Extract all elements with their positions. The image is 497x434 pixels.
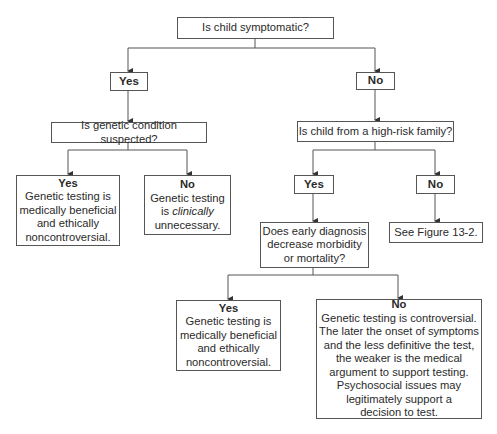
symptomatic-yes-outcome-box: Yes Genetic testing is medically benefic…: [16, 175, 120, 246]
outcome-text-italic: clinically: [172, 205, 214, 217]
outcome-line: and the less definitive the test,: [324, 339, 475, 353]
outcome-line: Psychosocial issues may: [337, 379, 461, 393]
root-question-box: Is child symptomatic?: [177, 17, 334, 39]
see-figure-text: See Figure 13-2.: [394, 226, 477, 240]
outcome-heading: No: [180, 178, 195, 192]
early-diagnosis-question-box: Does early diagnosis decrease morbidity …: [260, 222, 369, 268]
outcome-heading: Yes: [58, 177, 77, 191]
question-line: Does early diagnosis: [263, 225, 367, 239]
outcome-line: the weaker is the medical: [336, 352, 462, 366]
outcome-line: and ethically: [37, 217, 99, 231]
yes-label: Yes: [119, 75, 139, 89]
outcome-line: medically beneficial: [180, 329, 277, 343]
outcome-line: Genetic testing is controversial.: [321, 312, 476, 326]
outcome-line: is clinically: [161, 205, 214, 219]
outcome-line: unnecessary.: [155, 219, 221, 233]
root-question-text: Is child symptomatic?: [202, 21, 309, 35]
outcome-line: Genetic testing is: [25, 190, 111, 204]
genetic-condition-question-box: Is genetic condition suspected?: [51, 122, 207, 143]
high-risk-question-box: Is child from a high-risk family?: [297, 121, 454, 142]
outcome-text-prefix: is: [161, 205, 172, 217]
outcome-line: The later the onset of symptoms: [319, 325, 479, 339]
high-risk-no-label-box: No: [416, 175, 455, 194]
question-line: or mortality?: [284, 252, 346, 266]
outcome-line: and ethically: [197, 342, 259, 356]
outcome-line: argument to support testing.: [329, 366, 468, 380]
early-diagnosis-no-outcome-box: No Genetic testing is controversial. The…: [316, 299, 482, 419]
flowchart: Is child symptomatic? Yes No Is genetic …: [0, 0, 497, 434]
high-risk-no-label: No: [428, 178, 443, 192]
outcome-heading: Yes: [219, 302, 238, 316]
see-figure-box: See Figure 13-2.: [389, 222, 483, 243]
outcome-line: Genetic testing is: [186, 315, 272, 329]
genetic-condition-question-text: Is genetic condition suspected?: [52, 119, 206, 146]
no-label: No: [368, 74, 383, 88]
high-risk-question-text: Is child from a high-risk family?: [299, 125, 453, 139]
outcome-line: decision to test.: [360, 406, 438, 420]
outcome-heading: No: [392, 298, 407, 312]
outcome-line: legitimately support a: [346, 393, 452, 407]
yes-label-box: Yes: [110, 72, 148, 91]
outcome-line: Genetic testing: [150, 192, 225, 206]
outcome-line: noncontroversial.: [25, 231, 110, 245]
no-label-box: No: [356, 72, 395, 90]
high-risk-yes-label: Yes: [304, 178, 324, 192]
outcome-line: noncontroversial.: [186, 356, 271, 370]
outcome-line: medically beneficial: [19, 204, 116, 218]
early-diagnosis-yes-outcome-box: Yes Genetic testing is medically benefic…: [176, 300, 281, 371]
question-line: decrease morbidity: [267, 238, 362, 252]
symptomatic-no-outcome-box: No Genetic testing is clinically unneces…: [144, 175, 231, 235]
high-risk-yes-label-box: Yes: [294, 175, 334, 194]
